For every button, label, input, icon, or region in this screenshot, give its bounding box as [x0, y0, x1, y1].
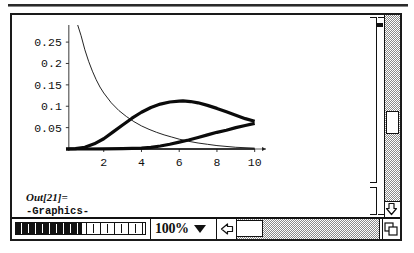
scroll-left-button[interactable]	[217, 219, 237, 239]
plot-curve-hump-curve	[66, 101, 255, 149]
arrow-down-icon	[385, 202, 398, 216]
ruler-tick	[107, 224, 108, 233]
cell-bracket-gutter	[364, 15, 386, 217]
x-tick-label: 8	[213, 156, 220, 169]
y-tick-label: 0.15	[34, 79, 62, 92]
ruler-tick	[135, 224, 136, 233]
horizontal-scrollbar-thumb[interactable]	[237, 220, 263, 237]
output-value: -Graphics-	[26, 205, 226, 217]
graphics-plot: 0.050.10.150.20.25246810	[18, 19, 278, 179]
ruler-tick	[93, 224, 94, 233]
x-tick-label: 4	[138, 156, 145, 169]
y-tick-label: 0.25	[34, 36, 62, 49]
x-tick-label: 2	[100, 156, 107, 169]
magnification-ruler-track[interactable]	[15, 222, 146, 235]
vertical-scrollbar[interactable]	[384, 15, 400, 217]
window-resize-grow-box[interactable]	[382, 217, 400, 239]
horizontal-scrollbar[interactable]	[237, 219, 380, 239]
ruler-tick	[21, 223, 22, 234]
window-bottom-bar: 100%	[12, 217, 400, 239]
ruler-tick	[114, 223, 115, 234]
plot-svg: 0.050.10.150.20.25246810	[18, 19, 278, 179]
scroll-down-button[interactable]	[385, 201, 400, 217]
zoom-level-value: 100%	[155, 221, 189, 237]
arrow-left-icon	[220, 222, 234, 236]
x-tick-label: 10	[248, 156, 262, 169]
notebook-canvas[interactable]: 0.050.10.150.20.25246810 Out[21]= -Graph…	[12, 15, 364, 217]
vertical-scrollbar-thumb[interactable]	[386, 111, 399, 134]
output-cell-bracket[interactable]	[370, 187, 377, 215]
ruler-tick	[100, 223, 101, 234]
ruler-tick	[63, 223, 64, 234]
screenshot-root: 0.050.10.150.20.25246810 Out[21]= -Graph…	[0, 0, 414, 253]
y-tick-label: 0.05	[34, 122, 62, 135]
magnification-ruler[interactable]	[12, 219, 151, 239]
ruler-tick	[49, 223, 50, 234]
zoom-level-select[interactable]: 100%	[151, 219, 217, 239]
ruler-tick	[42, 224, 43, 233]
y-tick-label: 0.2	[41, 57, 62, 70]
ruler-tick	[77, 223, 78, 234]
graphics-cell-bracket[interactable]	[370, 17, 377, 183]
ruler-tick	[142, 223, 143, 234]
x-axis-arrow	[262, 147, 266, 151]
output-cell[interactable]: Out[21]= -Graphics-	[26, 191, 226, 217]
resize-corner-icon	[383, 219, 399, 238]
ruler-tick	[70, 224, 71, 233]
graphics-cell-bracket-handle[interactable]	[376, 23, 383, 27]
magnification-ruler-ticks	[16, 223, 145, 234]
page-separator-rule-shadow	[8, 6, 408, 7]
y-tick-label: 0.1	[41, 100, 62, 113]
ruler-tick	[86, 223, 87, 234]
chevron-down-icon[interactable]	[194, 225, 206, 233]
ruler-tick	[56, 224, 57, 233]
ruler-tick	[28, 224, 29, 233]
notebook-window: 0.050.10.150.20.25246810 Out[21]= -Graph…	[10, 13, 402, 241]
output-label: Out[21]=	[26, 191, 226, 204]
x-tick-label: 6	[176, 156, 183, 169]
ruler-tick	[121, 224, 122, 233]
ruler-tick	[35, 223, 36, 234]
ruler-tick	[128, 223, 129, 234]
